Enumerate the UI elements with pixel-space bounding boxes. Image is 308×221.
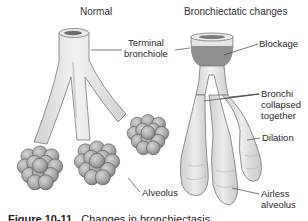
alveolus-sac bbox=[146, 141, 160, 155]
alveolus-sac bbox=[95, 170, 110, 185]
alveolus-sac bbox=[38, 175, 53, 190]
bronchiectasis-diagram: Normal Bronchiectatic changes Term bbox=[0, 0, 308, 221]
alveolus-sac bbox=[89, 153, 104, 168]
alveolar-cluster-middle bbox=[74, 141, 119, 185]
bronchiectatic-bronchiole bbox=[180, 33, 261, 205]
figure-caption: Figure 10-11 Changes in bronchiectasis. bbox=[8, 213, 213, 221]
blockage-label: Blockage bbox=[224, 38, 298, 55]
figure-number: Figure 10-11 bbox=[8, 213, 72, 221]
alveolar-cluster-left bbox=[17, 146, 62, 190]
terminal-bronchiole-text-1: Terminal bbox=[128, 37, 164, 48]
alveolus-sac bbox=[32, 158, 47, 173]
normal-bronchiole bbox=[34, 29, 126, 145]
alveolus-text: Alveolus bbox=[142, 187, 178, 198]
terminal-bronchiole-label: Terminal bronchiole bbox=[91, 37, 190, 59]
alveolar-cluster-right bbox=[127, 115, 169, 155]
airless-text-2: alveolus bbox=[261, 199, 296, 210]
blockage-text: Blockage bbox=[259, 38, 298, 49]
bronchiectatic-title: Bronchiectatic changes bbox=[184, 6, 287, 17]
bronchi-text-3: together bbox=[261, 110, 296, 121]
airless-text-1: Airless bbox=[261, 188, 290, 199]
dilation-text: Dilation bbox=[262, 132, 294, 143]
terminal-bronchiole-text-2: bronchiole bbox=[124, 48, 168, 59]
bronchi-text-1: Bronchi bbox=[261, 88, 293, 99]
alveolus-sac bbox=[141, 126, 155, 140]
normal-title: Normal bbox=[80, 6, 112, 17]
bronchi-text-2: collapsed bbox=[261, 99, 301, 110]
airless-alveolus-label: Airless alveolus bbox=[232, 188, 296, 210]
blockage-region bbox=[191, 46, 233, 66]
caption-text: Changes in bronchiectasis. bbox=[81, 213, 213, 221]
alveolus-label: Alveolus bbox=[128, 178, 178, 198]
